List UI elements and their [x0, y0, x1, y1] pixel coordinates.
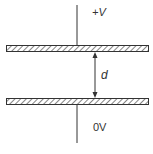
top-plate	[7, 46, 149, 52]
bottom-voltage-label: 0V	[93, 122, 106, 133]
gap-distance-label: d	[101, 69, 108, 81]
capacitor-diagram	[0, 0, 153, 154]
top-voltage-label: +V	[92, 7, 106, 18]
distance-arrow	[93, 52, 98, 98]
bottom-plate	[7, 99, 149, 105]
